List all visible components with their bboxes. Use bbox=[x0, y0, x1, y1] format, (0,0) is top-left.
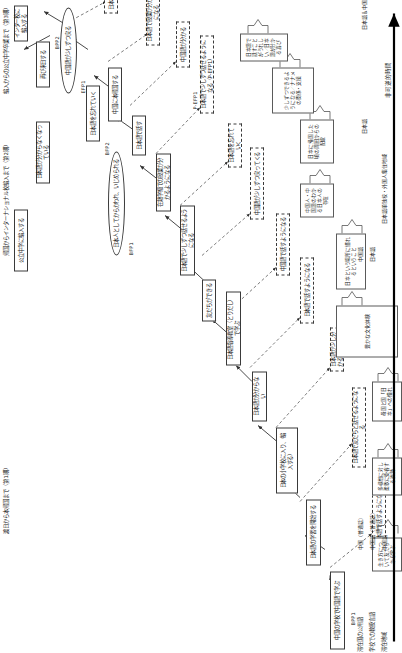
timeline-arrow-layer bbox=[0, 0, 402, 653]
figure-page: 中国の学校で中国語で学ぶ 日本語の学習を開始する 日本の小学校に入り、（編入する… bbox=[0, 0, 402, 653]
timeline-label: 非可逆的時間 bbox=[384, 61, 392, 97]
rotated-diagram-canvas: 中国の学校で中国語で学ぶ 日本語の学習を開始する 日本の小学校に入り、（編入する… bbox=[0, 0, 402, 653]
